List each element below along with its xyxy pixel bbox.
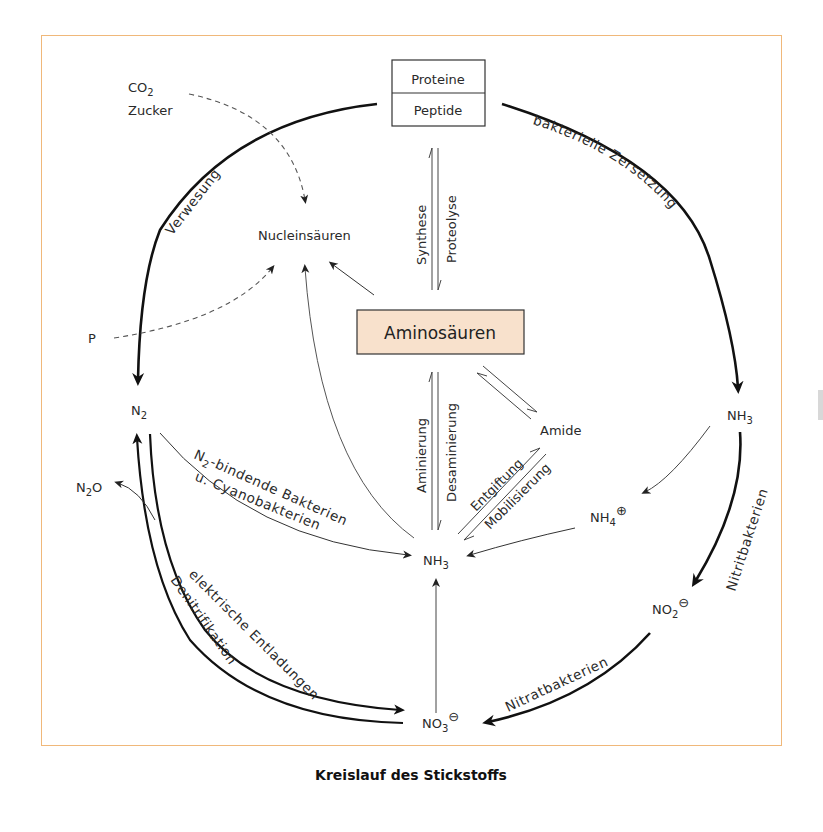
node-zucker: Zucker [128,103,173,118]
node-proteine: Proteine [411,72,465,87]
node-aminosaeuren: Aminosäuren [384,323,496,343]
node-amide: Amide [540,423,581,438]
arrow-nh3-to-nucleinsaeuren [305,268,414,538]
node-nh3-center: NH3 [423,553,449,571]
node-n2: N2 [131,403,147,421]
label-proteolyse: Proteolyse [444,195,459,263]
label-bakterielle-zersetzung: bakterielle Zersetzung [531,112,681,212]
arrow-aminosaeuren-to-nucleinsaeuren [332,264,374,295]
node-no2: NO2⊖ [652,595,689,620]
node-co2: CO2 [128,80,154,98]
arrow-nh3-to-nh4 [645,426,710,492]
node-nh3-right: NH3 [727,408,753,426]
arrow-to-n2o [118,483,155,520]
node-n2o: N2O [76,480,102,498]
nitrogen-cycle-diagram: Proteine Peptide Aminosäuren CO2 Zucker [0,0,823,832]
label-nitritbakterien: Nitritbakterien [723,486,771,593]
arrow-elektrische-entladungen [150,434,400,710]
arrow-p-dashed [114,268,272,338]
label-nitratbakterien: Nitratbakterien [503,653,611,715]
diagram-title: Kreislauf des Stickstoffs [315,767,507,783]
arrow-aminosaeuren-to-amide [483,366,537,412]
arrow-nh4-to-nh3 [470,528,575,555]
arrow-bakterielle-zersetzung [502,104,738,388]
label-verwesung: Verwesung [162,165,224,238]
node-peptide: Peptide [414,103,463,118]
label-aminierung: Aminierung [414,418,429,493]
node-nucleinsaeuren: Nucleinsäuren [258,228,351,243]
node-nh4: NH4⊕ [590,503,627,528]
node-no3: NO3⊖ [422,709,459,734]
arrow-amide-to-aminosaeuren [477,373,531,419]
label-synthese: Synthese [414,205,429,265]
label-desaminierung: Desaminierung [444,403,459,502]
node-p: P [88,331,96,346]
